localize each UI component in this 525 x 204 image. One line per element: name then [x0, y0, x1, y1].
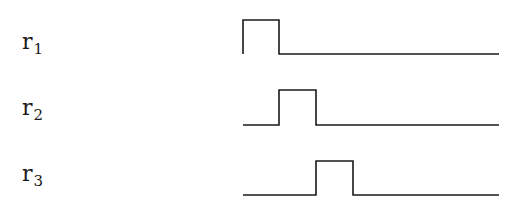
waveform-r3	[243, 161, 499, 195]
timing-waveforms	[0, 0, 525, 204]
waveform-r2	[243, 90, 499, 125]
waveform-r1	[243, 20, 499, 54]
